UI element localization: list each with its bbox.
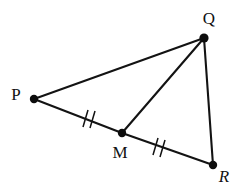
vertex-label-m: M xyxy=(112,143,127,162)
vertex-label-r: R xyxy=(218,167,230,186)
vertex-dot-m xyxy=(118,129,126,137)
tick-stroke xyxy=(90,111,95,128)
segment-qr xyxy=(204,38,213,165)
vertex-dot-p xyxy=(30,95,38,103)
vertex-label-q: Q xyxy=(203,9,215,28)
vertex-dot-r xyxy=(209,161,217,169)
geometry-figure-canvas: P Q M R xyxy=(0,0,242,190)
segment-pm xyxy=(34,99,122,133)
congruence-mark-mr xyxy=(153,138,165,157)
triangle-diagram-svg: P Q M R xyxy=(0,0,242,190)
vertex-dot-q xyxy=(199,33,208,42)
vertex-label-p: P xyxy=(11,85,20,104)
congruence-mark-pm xyxy=(83,110,95,128)
segment-mr xyxy=(122,133,213,165)
